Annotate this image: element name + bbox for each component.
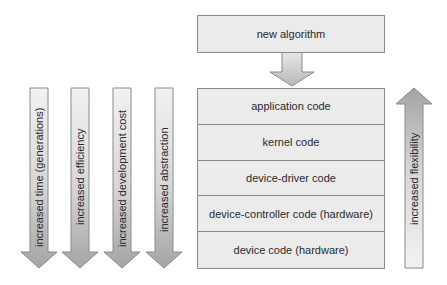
new-algorithm-box: new algorithm <box>197 15 385 53</box>
layer-label: kernel code <box>263 136 320 148</box>
layer-device-controller-code: device-controller code (hardware) <box>198 196 384 232</box>
down-arrow-icon <box>270 52 314 86</box>
layer-kernel-code: kernel code <box>198 125 384 161</box>
layer-application-code: application code <box>198 89 384 125</box>
new-algorithm-label: new algorithm <box>257 28 325 40</box>
layer-label: device code (hardware) <box>234 244 349 256</box>
layer-label: device-driver code <box>246 172 336 184</box>
arrow-label-time: increased time (generations) <box>33 108 45 247</box>
arrow-label-efficiency: increased efficiency <box>74 129 86 225</box>
arrow-label-abstraction: increased abstraction <box>158 127 170 232</box>
software-hardware-stack: application code kernel code device-driv… <box>197 88 385 269</box>
layer-device-driver-code: device-driver code <box>198 161 384 197</box>
arrow-label-development-cost: increased development cost <box>116 110 128 247</box>
arrow-label-flexibility: increased flexibility <box>408 133 420 225</box>
layer-device-code: device code (hardware) <box>198 232 384 268</box>
layer-label: device-controller code (hardware) <box>209 208 373 220</box>
layer-label: application code <box>251 100 331 112</box>
